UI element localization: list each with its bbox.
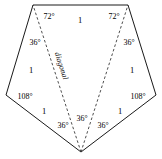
pentagon-fill <box>6 5 156 152</box>
pentagon-figure <box>0 0 162 159</box>
geometry-diagram: 72° 72° 36° 36° 108° 108° 36° 36° 36° 1 … <box>0 0 162 159</box>
